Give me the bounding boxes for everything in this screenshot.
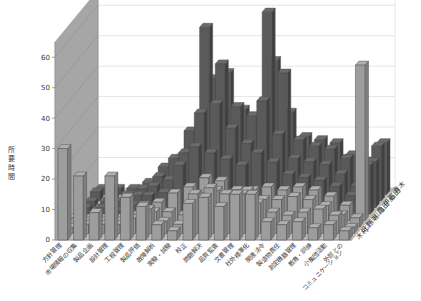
y-axis-title-char-2: 時 [8,164,15,172]
bar-side [302,218,305,240]
bar-front [355,65,365,220]
bar-front [167,231,177,240]
bar-front [214,206,224,240]
bar-front [230,194,240,240]
bar-side [68,145,71,240]
ytick-label-40: 40 [41,115,50,123]
bar-front [277,225,287,240]
bar-front [136,206,146,240]
bar-front [183,203,193,240]
ytick-label-60: 60 [41,54,50,62]
bar-side [371,161,374,214]
bar-front [308,228,318,240]
bar-front [74,176,84,240]
bar-front [58,149,68,240]
bar-side [208,193,211,240]
bar-side [83,172,86,240]
bar-side [255,190,258,240]
bar-front [261,222,271,240]
bar-side [193,199,196,240]
chart-container: 0102030405060方針管理市場情報の収集製品企画設計管理工程管理製品評価… [0,0,421,301]
bar-side [130,193,133,240]
ytick-label-30: 30 [41,145,50,153]
category-label-18: コミュニケーション [301,249,345,293]
ytick-label-50: 50 [41,84,50,92]
bar-side [381,142,384,201]
bar-front [152,225,162,240]
y-axis-title-char-1: 要 [8,155,15,163]
bar-side [224,202,227,240]
bar-side [271,218,274,240]
bar-side [99,209,102,240]
bar-front [105,176,115,240]
bar-side [115,172,118,240]
bar-side [146,202,149,240]
ytick-label-20: 20 [41,175,50,183]
bar-side [376,158,379,208]
bar-side [387,139,390,195]
ytick-label-0: 0 [46,236,50,244]
bar-front [199,197,209,240]
bar-front [324,225,334,240]
bar-front [339,231,349,240]
bar-side [240,190,243,240]
ytick-label-10: 10 [41,206,50,214]
y-axis-title-char-3: 間 [8,173,15,181]
3d-bar-chart: 0102030405060方針管理市場情報の収集製品企画設計管理工程管理製品評価… [0,0,421,301]
bar-front [89,213,99,240]
bar-front [121,197,131,240]
y-axis-title-char-0: 所 [8,145,15,154]
bar-front [292,222,302,240]
bar-front [246,194,256,240]
bar-side [365,61,368,220]
